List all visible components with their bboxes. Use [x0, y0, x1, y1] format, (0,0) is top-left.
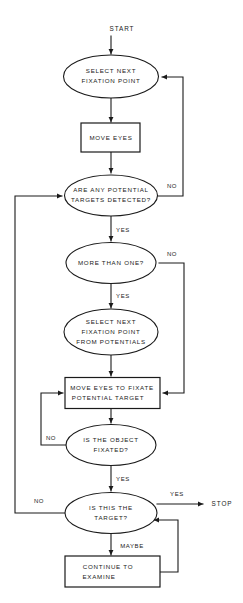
node-label-select-from-potentials-line1: SELECT NEXT [86, 318, 136, 325]
edge-label-detected-yes: YES [116, 227, 130, 233]
node-label-is-this-target-line2: TARGET? [94, 514, 127, 521]
terminal-stop-label: STOP [212, 500, 233, 507]
node-label-is-object-fixated-line1: IS THE OBJECT [83, 436, 139, 443]
node-label-is-object-fixated-line2: FIXATED? [93, 446, 128, 453]
edge-label-target-yes: YES [170, 491, 184, 497]
node-label-select-from-potentials-line3: FROM POTENTIALS [76, 338, 146, 345]
flowchart-canvas: START STOP SELECT NEXT FIXATION POINT MO… [0, 0, 243, 603]
node-label-select-from-potentials-line2: FIXATION POINT [81, 328, 140, 335]
edge-label-target-maybe: MAYBE [120, 543, 144, 549]
node-label-continue-examine-line1: CONTINUE TO [83, 563, 134, 570]
edge-label-target-no: NO [34, 498, 44, 504]
edge-more-than-one-no-loop [159, 263, 184, 393]
edge-detected-no-loop [158, 77, 183, 196]
edge-label-detected-no: NO [167, 183, 177, 189]
edge-label-fixated-yes: YES [116, 476, 130, 482]
node-continue-to-examine[interactable] [65, 556, 160, 587]
node-label-is-this-target-line1: IS THIS THE [89, 504, 133, 511]
node-label-move-eyes-fixate-line2: POTENTIAL TARGET [72, 394, 144, 401]
node-label-more-than-one: MORE THAN ONE? [78, 259, 144, 266]
edge-label-more-than-one-yes: YES [116, 293, 130, 299]
edge-target-no-loop [15, 196, 65, 513]
node-label-move-eyes: MOVE EYES [89, 134, 132, 141]
edge-label-more-than-one-no: NO [167, 251, 177, 257]
flowchart-svg: START STOP SELECT NEXT FIXATION POINT MO… [0, 0, 243, 603]
node-label-select-next-fixation-point-line2: FIXATION POINT [81, 77, 140, 84]
terminal-start-label: START [110, 25, 135, 32]
edge-label-fixated-no: NO [46, 435, 56, 441]
node-label-move-eyes-fixate-line1: MOVE EYES TO FIXATE [70, 384, 154, 391]
node-label-detected-line1: ARE ANY POTENTIAL [73, 186, 149, 193]
node-label-select-next-fixation-point-line1: SELECT NEXT [86, 67, 136, 74]
node-label-detected-line2: TARGETS DETECTED? [71, 196, 151, 203]
node-label-continue-examine-line2: EXAMINE [82, 573, 115, 580]
